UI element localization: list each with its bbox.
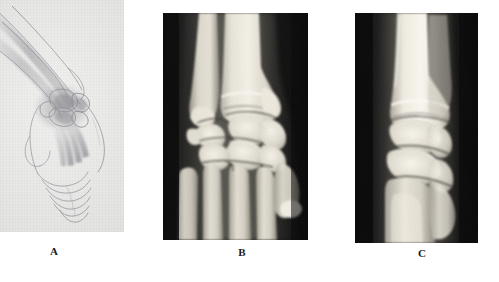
- panel-a-illustration: [0, 0, 124, 232]
- panel-label-b: B: [232, 246, 252, 258]
- lateral-wrist-xray-render: [355, 13, 478, 243]
- pa-wrist-xray-render: [163, 13, 308, 240]
- carpal-bones-group: [36, 86, 90, 130]
- figure-root: A: [0, 0, 499, 282]
- panel-label-c: C: [412, 247, 432, 259]
- hand-wrist-line-drawing: [0, 0, 124, 232]
- panel-c-radiograph-lateral: [355, 13, 478, 243]
- panel-b-radiograph-pa: [163, 13, 308, 240]
- panel-label-a: A: [44, 245, 64, 257]
